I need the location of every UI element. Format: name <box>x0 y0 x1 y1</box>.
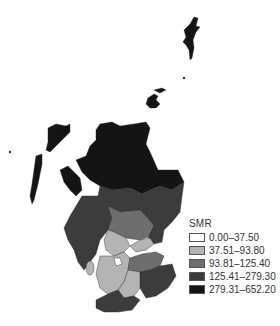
legend-swatch <box>189 259 205 268</box>
region-lewis <box>46 124 70 152</box>
legend-item: 279.31–652.20 <box>189 283 276 296</box>
region-highland-north <box>76 122 184 194</box>
region-orkney <box>146 94 160 108</box>
legend-label: 93.81–125.40 <box>209 258 270 269</box>
legend-label: 125.41–279.30 <box>209 271 276 282</box>
region-orkney-north <box>154 88 166 93</box>
region-fife <box>130 238 154 252</box>
region-arran <box>86 261 94 275</box>
region-fair-isle <box>183 77 185 79</box>
legend-swatch <box>189 285 205 294</box>
legend-item: 0.00–37.50 <box>189 231 276 244</box>
region-skye <box>60 166 82 196</box>
legend-swatch <box>189 233 205 242</box>
legend-swatch <box>189 272 205 281</box>
legend-item: 93.81–125.40 <box>189 257 276 270</box>
legend-title: SMR <box>189 218 276 229</box>
legend-item: 125.41–279.30 <box>189 270 276 283</box>
legend-item: 37.51–93.80 <box>189 244 276 257</box>
legend-label: 0.00–37.50 <box>209 232 259 243</box>
region-uist <box>30 154 42 204</box>
legend: SMR 0.00–37.50 37.51–93.80 93.81–125.40 … <box>189 218 276 296</box>
region-shetland <box>183 17 200 60</box>
legend-swatch <box>189 246 205 255</box>
legend-label: 37.51–93.80 <box>209 245 265 256</box>
region-st-kilda <box>9 151 11 153</box>
legend-label: 279.31–652.20 <box>209 284 276 295</box>
